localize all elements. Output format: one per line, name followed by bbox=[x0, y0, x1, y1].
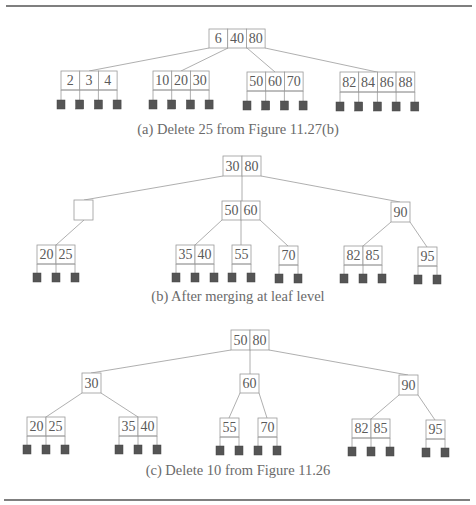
data-record-square-icon bbox=[262, 101, 270, 110]
key-value: 70 bbox=[287, 74, 301, 89]
tree-edge bbox=[46, 393, 82, 417]
key-value: 90 bbox=[394, 205, 408, 220]
data-record-square-icon bbox=[336, 102, 344, 111]
key-value: 50 bbox=[234, 333, 248, 348]
key-value: 30 bbox=[226, 159, 240, 174]
data-record-square-icon bbox=[275, 274, 283, 283]
tree-edge bbox=[261, 176, 400, 202]
key-value: 60 bbox=[244, 203, 258, 218]
leaf-node: 2025 bbox=[23, 417, 69, 454]
internal-node: 64080 bbox=[209, 29, 265, 48]
key-value: 70 bbox=[261, 420, 275, 435]
key-value: 84 bbox=[361, 75, 375, 90]
leaf-node: 102030 bbox=[149, 71, 213, 109]
tree-edge bbox=[247, 48, 275, 72]
data-record-square-icon bbox=[186, 100, 194, 109]
key-value: 60 bbox=[243, 376, 257, 391]
key-value: 90 bbox=[402, 378, 416, 393]
key-value: 95 bbox=[421, 249, 435, 264]
data-record-square-icon bbox=[411, 102, 419, 111]
key-value: 25 bbox=[59, 247, 73, 262]
internal-node: 5080 bbox=[231, 330, 269, 350]
figure-b-after-merging: 3080506090202535405570828595 (b) After m… bbox=[33, 156, 441, 305]
data-record-square-icon bbox=[52, 273, 60, 282]
tree-edge bbox=[101, 393, 138, 417]
data-record-square-icon bbox=[367, 447, 375, 456]
tree-edge bbox=[259, 393, 267, 418]
data-record-square-icon bbox=[191, 273, 199, 282]
data-record-square-icon bbox=[340, 274, 348, 283]
caption-b: (b) After merging at leaf level bbox=[151, 288, 324, 305]
key-cell bbox=[74, 200, 93, 220]
tree-edge bbox=[260, 220, 288, 246]
leaf-node: 95 bbox=[414, 247, 441, 284]
internal-node: 3080 bbox=[223, 156, 261, 176]
data-record-square-icon bbox=[441, 448, 449, 457]
key-value: 85 bbox=[366, 248, 380, 263]
key-value: 2 bbox=[67, 73, 74, 88]
data-record-square-icon bbox=[94, 100, 102, 109]
key-value: 80 bbox=[253, 333, 267, 348]
internal-node: 90 bbox=[391, 202, 410, 222]
data-record-square-icon bbox=[205, 100, 213, 109]
leaf-node: 55 bbox=[216, 418, 243, 455]
key-value: 55 bbox=[235, 247, 249, 262]
data-record-square-icon bbox=[273, 446, 281, 455]
tree-nodes: 3080506090202535405570828595 bbox=[33, 156, 441, 284]
leaf-node: 3540 bbox=[172, 245, 218, 282]
key-value: 10 bbox=[155, 73, 169, 88]
leaf-node: 234 bbox=[57, 71, 121, 109]
data-record-square-icon bbox=[422, 448, 430, 457]
key-value: 30 bbox=[193, 73, 207, 88]
tree-edge bbox=[56, 220, 84, 245]
data-record-square-icon bbox=[153, 445, 161, 454]
caption-a: (a) Delete 25 from Figure 11.27(b) bbox=[137, 121, 339, 138]
caption-c: (c) Delete 10 from Figure 11.26 bbox=[146, 462, 331, 479]
key-value: 82 bbox=[342, 75, 356, 90]
tree-edge bbox=[91, 350, 231, 373]
data-record-square-icon bbox=[115, 445, 123, 454]
internal-node: 90 bbox=[399, 375, 418, 395]
tree-edge bbox=[418, 395, 435, 420]
data-record-square-icon bbox=[216, 446, 224, 455]
key-value: 6 bbox=[215, 31, 222, 46]
key-value: 40 bbox=[141, 419, 155, 434]
data-record-square-icon bbox=[210, 273, 218, 282]
data-record-square-icon bbox=[355, 102, 363, 111]
tree-edge bbox=[89, 48, 209, 71]
tree-edge bbox=[371, 395, 399, 419]
tree-edges bbox=[89, 48, 377, 72]
data-record-square-icon bbox=[228, 273, 236, 282]
key-value: 4 bbox=[104, 73, 111, 88]
tree-edge bbox=[269, 350, 408, 375]
data-record-square-icon bbox=[42, 445, 50, 454]
key-value: 50 bbox=[249, 74, 263, 89]
key-value: 95 bbox=[429, 422, 443, 437]
key-value: 25 bbox=[49, 419, 63, 434]
tree-edge bbox=[410, 222, 427, 247]
key-value: 82 bbox=[347, 248, 361, 263]
data-record-square-icon bbox=[280, 101, 288, 110]
data-record-square-icon bbox=[243, 101, 251, 110]
leaf-node: 55 bbox=[228, 245, 255, 282]
data-record-square-icon bbox=[134, 445, 142, 454]
data-record-square-icon bbox=[168, 100, 176, 109]
data-record-square-icon bbox=[23, 445, 31, 454]
figure-a-delete-25: 6408023410203050607082848688 (a) Delete … bbox=[57, 29, 419, 138]
leaf-node: 8285 bbox=[340, 246, 386, 283]
data-record-square-icon bbox=[76, 100, 84, 109]
key-value: 3 bbox=[86, 73, 93, 88]
btree-deletion-figure: 6408023410203050607082848688 (a) Delete … bbox=[0, 0, 476, 505]
data-record-square-icon bbox=[71, 273, 79, 282]
data-record-square-icon bbox=[57, 100, 65, 109]
key-value: 86 bbox=[380, 75, 394, 90]
data-record-square-icon bbox=[61, 445, 69, 454]
internal-node: 5060 bbox=[222, 201, 260, 220]
data-record-square-icon bbox=[235, 446, 243, 455]
key-value: 85 bbox=[374, 421, 388, 436]
data-record-square-icon bbox=[433, 275, 441, 284]
tree-nodes: 5080306090202535405570828595 bbox=[23, 330, 449, 457]
tree-edge bbox=[181, 48, 228, 71]
key-value: 50 bbox=[225, 203, 239, 218]
key-value: 70 bbox=[282, 248, 296, 263]
